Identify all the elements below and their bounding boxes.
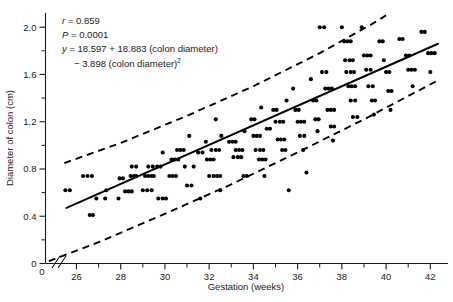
data-point [161, 150, 165, 154]
upper-prediction-band [64, 15, 386, 163]
data-point [331, 139, 335, 143]
data-point [268, 127, 272, 131]
data-point [353, 84, 357, 88]
axis-break-mark [52, 256, 66, 268]
chart-figure: 00.40.81.21.62.0 262830323436384042 0 Ge… [0, 0, 453, 302]
data-point [322, 25, 326, 29]
data-point [81, 174, 85, 178]
data-point [103, 196, 107, 200]
x-axis-major-ticks [76, 264, 430, 270]
data-point [63, 188, 67, 192]
data-point [388, 108, 392, 112]
data-point [192, 165, 196, 169]
data-point [369, 68, 373, 72]
data-point [91, 213, 95, 217]
data-point [298, 134, 302, 138]
data-point [382, 58, 386, 62]
data-point [413, 68, 417, 72]
data-point [317, 117, 321, 121]
data-point [254, 148, 258, 152]
data-point [264, 157, 268, 161]
data-point [372, 113, 376, 117]
data-point [428, 70, 432, 74]
data-point [146, 165, 150, 169]
data-point [275, 108, 279, 112]
data-point [309, 77, 313, 81]
data-point [156, 196, 160, 200]
data-point [239, 155, 243, 159]
data-point [176, 157, 180, 161]
data-point [261, 148, 265, 152]
data-point [200, 150, 204, 154]
data-point [373, 98, 377, 102]
data-point [134, 165, 138, 169]
y-tick-label-0.4: 0.4 [23, 211, 36, 222]
data-point [104, 188, 108, 192]
data-point [351, 58, 355, 62]
data-point [218, 188, 222, 192]
data-point [234, 140, 238, 144]
data-point [273, 120, 277, 124]
data-point [364, 68, 368, 72]
data-point [258, 134, 262, 138]
data-point [407, 53, 411, 57]
data-point [433, 51, 437, 55]
x-tick-label-40: 40 [381, 271, 392, 282]
data-point [302, 134, 306, 138]
data-point [207, 174, 211, 178]
scatter-plot-svg: 00.40.81.21.62.0 262830323436384042 0 Ge… [0, 0, 453, 302]
data-point [130, 189, 134, 193]
data-point [366, 84, 370, 88]
data-point [262, 174, 266, 178]
data-point [282, 137, 286, 141]
data-point [219, 134, 223, 138]
data-point [152, 174, 156, 178]
data-point [182, 148, 186, 152]
data-point [94, 196, 98, 200]
data-point [301, 148, 305, 152]
data-point [121, 176, 125, 180]
y-tick-label-0.8: 0.8 [23, 163, 36, 174]
x-tick-label-38: 38 [337, 271, 348, 282]
data-point [90, 174, 94, 178]
data-point [130, 165, 134, 169]
y-axis-title: Diameter of colon (cm) [4, 90, 15, 186]
data-point [344, 70, 348, 74]
data-point [204, 140, 208, 144]
data-point [285, 98, 289, 102]
y-tick-label-0: 0 [31, 258, 36, 269]
y-tick-label-1.2: 1.2 [23, 116, 36, 127]
annotation-line-4: − 3.898 (colon diameter)2 [74, 57, 181, 69]
data-point [353, 98, 357, 102]
data-point [390, 89, 394, 93]
data-point [340, 25, 344, 29]
data-point [150, 188, 154, 192]
data-point [240, 148, 244, 152]
data-point [187, 134, 191, 138]
data-point [164, 196, 168, 200]
data-point [387, 70, 391, 74]
data-point [151, 165, 155, 169]
data-point [315, 129, 319, 133]
data-point [189, 183, 193, 187]
data-point [324, 70, 328, 74]
data-point [231, 155, 235, 159]
data-point [423, 30, 427, 34]
statistics-annotation: r = 0.859P = 0.0001y = 18.597 + 18.883 (… [61, 15, 218, 69]
data-point [369, 53, 373, 57]
data-point [183, 165, 187, 169]
data-point [349, 98, 353, 102]
annotation-line-3: y = 18.597 + 18.883 (colon diameter) [61, 43, 218, 54]
data-point [158, 165, 162, 169]
data-point [259, 105, 263, 109]
x-tick-label-26: 26 [71, 271, 82, 282]
data-point [371, 84, 375, 88]
annotation-line-2: P = 0.0001 [62, 29, 108, 40]
data-point [214, 117, 218, 121]
data-point [174, 174, 178, 178]
data-point [332, 108, 336, 112]
data-point [297, 108, 301, 112]
data-point [245, 174, 249, 178]
data-point [145, 188, 149, 192]
data-point [212, 157, 216, 161]
